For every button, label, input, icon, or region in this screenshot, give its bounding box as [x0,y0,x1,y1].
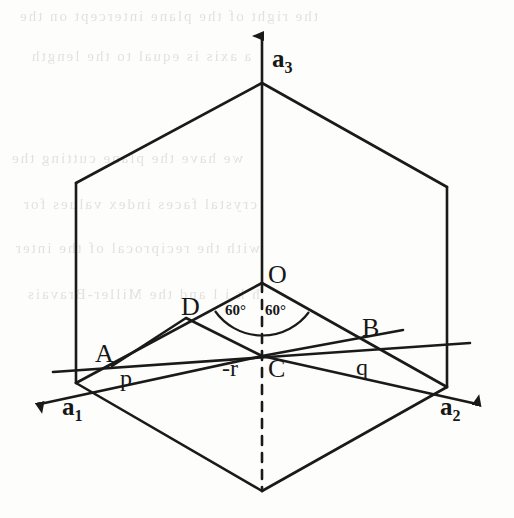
point-label-A: A [95,341,114,367]
point-label-q: q [356,355,368,379]
angle-label-left-60: 60° [225,303,246,318]
hexagonal-axes-drawing [0,0,514,518]
point-label-O: O [268,262,287,288]
point-label-p: p [120,366,132,390]
point-label-negative-r: -r [222,356,238,380]
point-label-D: D [181,294,200,320]
axis-label-a2: a2 [440,394,461,424]
point-label-C: C [268,356,285,382]
axis-label-a1: a1 [62,394,83,424]
point-label-B: B [362,315,379,341]
axis-label-a3: a3 [272,46,293,76]
figure-canvas: the right of the plane intercept on the … [0,0,514,518]
angle-label-right-60: 60° [265,303,286,318]
